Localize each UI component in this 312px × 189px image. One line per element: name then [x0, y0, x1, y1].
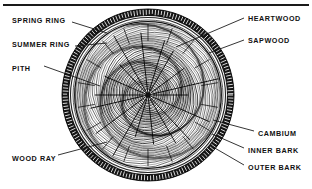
figure-page: SPRING RING SUMMER RING PITH WOOD RAY HE…: [0, 0, 312, 189]
label-inner-bark: INNER BARK: [248, 146, 299, 155]
leader-line-outer-bark: [213, 147, 244, 165]
pith-center: [145, 92, 150, 97]
label-outer-bark: OUTER BARK: [248, 163, 301, 172]
label-sapwood: SAPWOOD: [248, 36, 290, 45]
label-wood-ray: WOOD RAY: [12, 154, 56, 163]
label-spring-ring: SPRING RING: [12, 16, 66, 25]
label-heartwood: HEARTWOOD: [248, 14, 301, 23]
label-pith: PITH: [12, 64, 31, 73]
label-summer-ring: SUMMER RING: [12, 40, 70, 49]
label-cambium: CAMBIUM: [258, 129, 297, 138]
